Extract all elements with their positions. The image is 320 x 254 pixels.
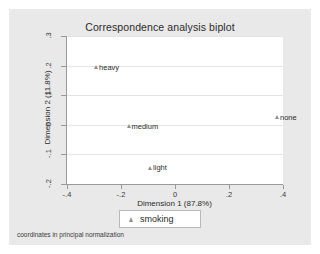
y-axis-title: Dimension 2 (11.8%) [43, 34, 52, 182]
data-point-label: light [153, 163, 167, 172]
data-point[interactable]: light [148, 163, 167, 172]
x-tick-mark [283, 185, 284, 189]
x-tick-label: .2 [217, 190, 241, 199]
data-point-label: medium [132, 122, 159, 131]
x-tick-mark [229, 185, 230, 189]
triangle-marker-icon [148, 166, 152, 170]
x-tick-label: -.4 [55, 190, 79, 199]
data-point[interactable]: heavy [94, 63, 119, 72]
gridline [67, 154, 283, 155]
graph-region: Correspondence analysis biplot heavymedi… [9, 9, 311, 245]
y-tick-mark [61, 95, 66, 96]
triangle-marker-icon [127, 124, 131, 128]
legend-label: smoking [140, 214, 174, 224]
triangle-marker-icon [275, 115, 279, 119]
gridline [67, 125, 283, 126]
footnote: coordinates in principal normalization [17, 231, 124, 238]
x-tick-label: 0 [163, 190, 187, 199]
x-tick-mark [67, 185, 68, 189]
triangle-marker-icon [129, 217, 133, 222]
y-tick-mark [61, 184, 66, 185]
x-tick-label: -.2 [109, 190, 133, 199]
data-point[interactable]: medium [127, 122, 159, 131]
x-tick-mark [175, 185, 176, 189]
y-tick-mark [61, 36, 66, 37]
x-tick-mark [121, 185, 122, 189]
y-tick-mark [61, 154, 66, 155]
page-title: Correspondence analysis biplot [9, 21, 311, 33]
y-tick-mark [61, 125, 66, 126]
data-point[interactable]: none [275, 113, 297, 122]
legend[interactable]: smoking [119, 210, 201, 228]
y-tick-mark [61, 66, 66, 67]
x-axis-title: Dimension 1 (87.8%) [66, 199, 283, 208]
screenshot-page: Correspondence analysis biplot heavymedi… [0, 0, 320, 254]
triangle-marker-icon [94, 65, 98, 69]
y-axis-line [66, 36, 67, 185]
data-point-label: heavy [99, 63, 119, 72]
x-tick-label: .4 [271, 190, 295, 199]
data-point-label: none [280, 113, 297, 122]
plot-area: heavymediumlightnone [67, 36, 283, 184]
gridline [67, 95, 283, 96]
gridline [67, 36, 283, 37]
